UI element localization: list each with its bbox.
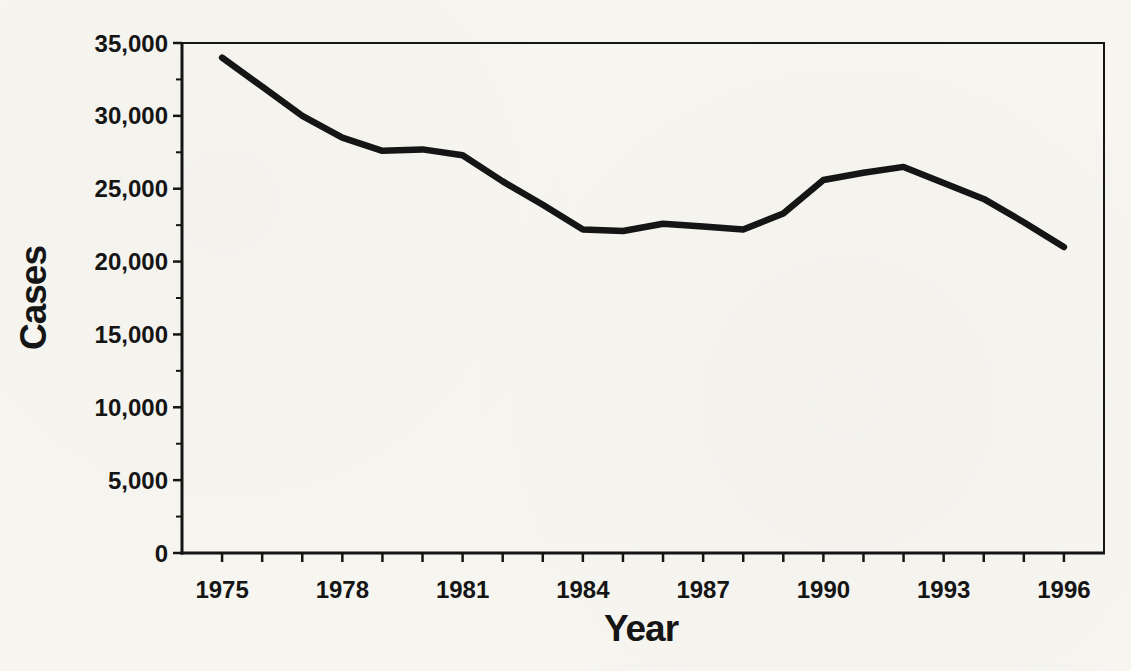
line-chart-canvas: 05,00010,00015,00020,00025,00030,00035,0… bbox=[0, 0, 1131, 671]
x-tick-label: 1984 bbox=[556, 576, 610, 603]
y-tick-label: 30,000 bbox=[95, 102, 168, 129]
y-tick-label: 0 bbox=[155, 540, 168, 567]
plot-border-rect bbox=[182, 43, 1104, 553]
plot-border bbox=[181, 42, 1106, 555]
axis-tick-labels: 05,00010,00015,00020,00025,00030,00035,0… bbox=[95, 30, 1091, 604]
x-tick-label: 1978 bbox=[316, 576, 369, 603]
x-axis-title: Year bbox=[604, 608, 678, 650]
y-tick-label: 25,000 bbox=[95, 175, 168, 202]
x-tick-label: 1996 bbox=[1037, 576, 1090, 603]
x-tick-label: 1975 bbox=[195, 576, 248, 603]
data-series bbox=[222, 58, 1064, 247]
y-tick-label: 15,000 bbox=[95, 321, 168, 348]
y-axis-title: Cases bbox=[13, 246, 55, 350]
x-tick-label: 1990 bbox=[797, 576, 850, 603]
cases-line-series bbox=[222, 58, 1064, 247]
y-tick-label: 20,000 bbox=[95, 248, 168, 275]
x-tick-label: 1981 bbox=[436, 576, 489, 603]
x-tick-label: 1993 bbox=[917, 576, 970, 603]
scanned-line-chart-figure: 05,00010,00015,00020,00025,00030,00035,0… bbox=[0, 0, 1131, 671]
y-tick-label: 10,000 bbox=[95, 394, 168, 421]
x-tick-label: 1987 bbox=[676, 576, 729, 603]
y-tick-label: 35,000 bbox=[95, 30, 168, 57]
y-tick-label: 5,000 bbox=[108, 467, 168, 494]
